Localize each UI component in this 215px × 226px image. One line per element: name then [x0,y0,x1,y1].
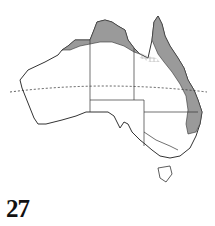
figure-number: 27 [6,195,29,223]
tasmania-outline [158,166,172,182]
australia-map [0,0,215,190]
